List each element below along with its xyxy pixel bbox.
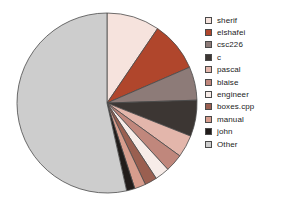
legend-item-label: john: [217, 127, 233, 136]
legend-swatch-icon: [205, 66, 212, 73]
legend-swatch-icon: [205, 29, 212, 36]
legend-item-label: engineer: [217, 90, 249, 99]
legend-item-sherif[interactable]: sherif: [205, 14, 282, 26]
legend-item-label: blaise: [217, 78, 239, 87]
legend-item-blaise[interactable]: blaise: [205, 76, 282, 88]
legend-item-label: Other: [217, 140, 238, 149]
legend-item-pascal[interactable]: pascal: [205, 64, 282, 76]
legend-swatch-icon: [205, 128, 212, 135]
legend-item-label: boxes.cpp: [217, 102, 254, 111]
pie-chart-svg: [0, 0, 210, 205]
legend-item-label: c: [217, 53, 221, 62]
pie-chart-plot-area: [0, 0, 210, 205]
legend-swatch-icon: [205, 79, 212, 86]
legend-item-other[interactable]: Other: [205, 138, 282, 150]
legend-item-elshafei[interactable]: elshafei: [205, 26, 282, 38]
legend-item-manual[interactable]: manual: [205, 113, 282, 125]
legend-item-boxes-cpp[interactable]: boxes.cpp: [205, 101, 282, 113]
pie-chart-figure: sherifelshafeicsc226cpascalblaiseenginee…: [0, 0, 282, 213]
legend-swatch-icon: [205, 103, 212, 110]
legend-swatch-icon: [205, 141, 212, 148]
legend-swatch-icon: [205, 41, 212, 48]
legend-item-c[interactable]: c: [205, 51, 282, 63]
legend-item-label: elshafei: [217, 28, 245, 37]
chart-legend: sherifelshafeicsc226cpascalblaiseenginee…: [205, 14, 282, 150]
legend-item-label: sherif: [217, 16, 237, 25]
legend-item-csc226[interactable]: csc226: [205, 39, 282, 51]
legend-item-engineer[interactable]: engineer: [205, 88, 282, 100]
legend-item-label: manual: [217, 115, 244, 124]
legend-swatch-icon: [205, 116, 212, 123]
legend-item-label: pascal: [217, 65, 241, 74]
legend-item-john[interactable]: john: [205, 126, 282, 138]
legend-item-label: csc226: [217, 40, 243, 49]
legend-swatch-icon: [205, 91, 212, 98]
legend-swatch-icon: [205, 54, 212, 61]
legend-swatch-icon: [205, 17, 212, 24]
